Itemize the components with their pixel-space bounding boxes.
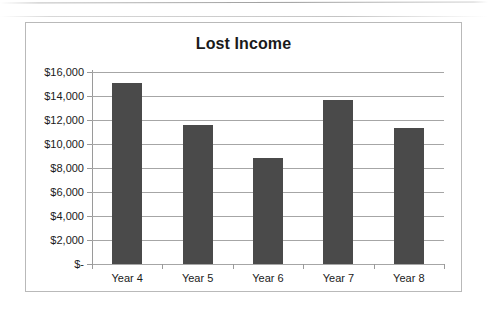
x-axis-tick — [162, 264, 163, 269]
y-axis-tick-label: $10,000 — [44, 138, 84, 150]
bar-year-7[interactable] — [323, 100, 353, 264]
bar-series — [92, 72, 444, 264]
y-axis-tick-label: $2,000 — [50, 234, 84, 246]
plot-area — [92, 72, 444, 264]
chart-title: Lost Income — [26, 35, 461, 53]
y-axis-labels: $-$2,000$4,000$6,000$8,000$10,000$12,000… — [26, 72, 84, 264]
chart-container: Lost Income $-$2,000$4,000$6,000$8,000$1… — [25, 22, 462, 292]
x-axis-label-year-6: Year 6 — [252, 272, 283, 284]
x-axis-tick — [233, 264, 234, 269]
scan-artifact-line-top — [0, 1, 488, 3]
y-axis-tick-label: $6,000 — [50, 186, 84, 198]
x-axis-tick — [374, 264, 375, 269]
x-axis-tick — [444, 264, 445, 269]
x-axis-label-year-4: Year 4 — [111, 272, 142, 284]
y-axis-tick-label: $8,000 — [50, 162, 84, 174]
bar-year-8[interactable] — [394, 128, 424, 264]
x-axis-tick — [92, 264, 93, 269]
bar-year-5[interactable] — [183, 125, 213, 264]
bar-year-4[interactable] — [112, 83, 142, 264]
gridline — [92, 264, 444, 265]
x-axis-labels: Year 4Year 5Year 6Year 7Year 8 — [92, 272, 444, 290]
y-axis-tick-label: $- — [74, 258, 84, 270]
x-axis-label-year-7: Year 7 — [323, 272, 354, 284]
y-axis-tick-label: $16,000 — [44, 66, 84, 78]
y-axis-tick-label: $12,000 — [44, 114, 84, 126]
scan-artifact-line-second — [0, 16, 488, 17]
bar-year-6[interactable] — [253, 158, 283, 264]
x-axis-label-year-5: Year 5 — [182, 272, 213, 284]
y-axis-tick-label: $14,000 — [44, 90, 84, 102]
y-axis-tick-label: $4,000 — [50, 210, 84, 222]
x-axis-tick — [303, 264, 304, 269]
x-axis-label-year-8: Year 8 — [393, 272, 424, 284]
